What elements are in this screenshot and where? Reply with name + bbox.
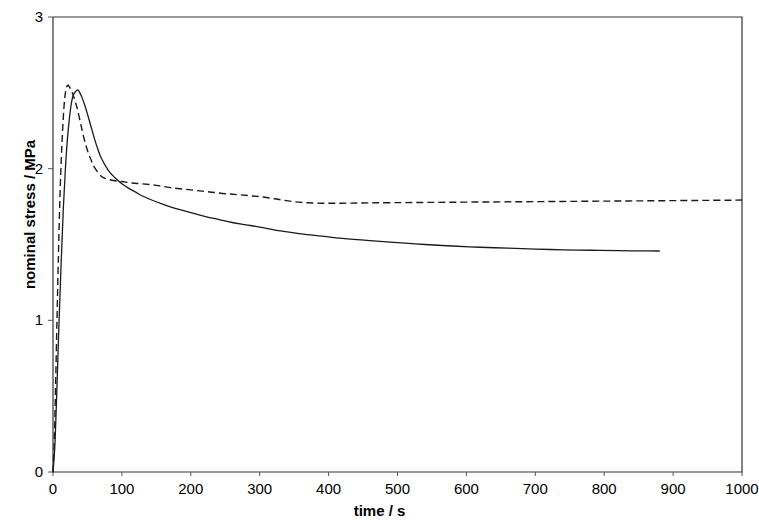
y-axis-title: nominal stress / MPa: [21, 90, 38, 340]
x-tick-label: 500: [368, 481, 428, 496]
series-solid-curve: [53, 90, 659, 472]
series-dashed-curve: [53, 85, 742, 472]
x-tick-label: 600: [436, 481, 496, 496]
x-tick-label: 0: [23, 481, 83, 496]
x-tick-label: 700: [505, 481, 565, 496]
axis-frame: [53, 17, 742, 472]
x-tick-label: 1000: [712, 481, 759, 496]
chart-figure: 0123 01002003004005006007008009001000 no…: [0, 0, 759, 525]
x-tick-label: 900: [643, 481, 703, 496]
y-axis-ticks: [48, 17, 53, 472]
x-tick-label: 300: [230, 481, 290, 496]
x-tick-label: 200: [161, 481, 221, 496]
x-tick-label: 400: [299, 481, 359, 496]
plot-canvas: [0, 0, 759, 525]
x-tick-label: 800: [574, 481, 634, 496]
y-tick-label: 3: [17, 9, 43, 24]
x-axis-title: time / s: [0, 502, 759, 519]
x-tick-label: 100: [92, 481, 152, 496]
y-tick-label: 0: [17, 464, 43, 479]
